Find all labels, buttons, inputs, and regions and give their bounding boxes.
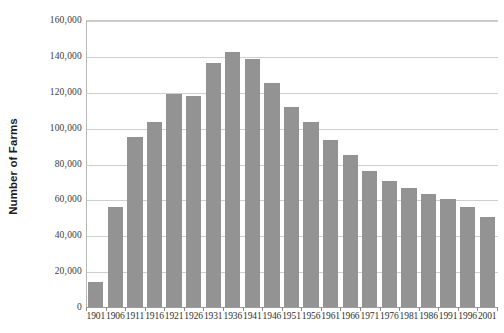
x-axis-tick-label: 1971: [360, 311, 379, 321]
bar-slot: [360, 20, 380, 307]
bar-chart-figure: Number of Farms 160,000140,000120,000100…: [0, 0, 504, 333]
bar-slot: [262, 20, 282, 307]
bar[interactable]: [284, 107, 299, 307]
x-axis-tick-label: 1911: [126, 311, 144, 321]
x-axis-tick-label: 1986: [419, 311, 438, 321]
x-axis-tick-label: 1931: [204, 311, 223, 321]
x-axis-tick-labels: 1901190619111916192119261931193619411946…: [86, 311, 498, 331]
bar-slot: [399, 20, 419, 307]
bar[interactable]: [186, 96, 201, 307]
bar-slot: [282, 20, 302, 307]
bar-slot: [243, 20, 263, 307]
bar-slot: [321, 20, 341, 307]
x-axis-tick-label: 1946: [263, 311, 282, 321]
y-axis-tick-label: 140,000: [6, 51, 82, 61]
x-axis-tick-label: 1991: [439, 311, 458, 321]
bar[interactable]: [225, 52, 240, 307]
bar[interactable]: [382, 181, 397, 307]
bar-slot: [477, 20, 497, 307]
bar-slot: [380, 20, 400, 307]
bar-slot: [106, 20, 126, 307]
bar[interactable]: [245, 59, 260, 307]
x-axis-tick-label: 1906: [106, 311, 125, 321]
bar[interactable]: [323, 140, 338, 307]
bar-slot: [125, 20, 145, 307]
bar[interactable]: [460, 207, 475, 307]
x-axis-tick-label: 1941: [243, 311, 262, 321]
bar[interactable]: [343, 155, 358, 307]
x-axis-tick-label: 1926: [184, 311, 203, 321]
y-axis-tick-label: 120,000: [6, 87, 82, 97]
bar[interactable]: [362, 171, 377, 307]
x-axis-tick-label: 1951: [282, 311, 301, 321]
x-axis-tick-label: 1961: [321, 311, 340, 321]
x-axis-tick-label: 1901: [86, 311, 105, 321]
y-axis-tick-label: 80,000: [6, 159, 82, 169]
y-axis-tick-label: 20,000: [6, 266, 82, 276]
bar-slot: [419, 20, 439, 307]
y-axis-tick-label: 0: [6, 302, 82, 312]
bar[interactable]: [421, 194, 436, 307]
x-axis-tick-label: 1921: [165, 311, 184, 321]
x-axis-tick-label: 1936: [223, 311, 242, 321]
x-axis-tick-label: 1996: [458, 311, 477, 321]
bar[interactable]: [480, 217, 495, 307]
x-axis-tick-label: 1981: [400, 311, 419, 321]
x-axis-tick-label: 2001: [478, 311, 497, 321]
x-axis-tick-label: 1916: [145, 311, 164, 321]
y-axis-tick-label: 100,000: [6, 123, 82, 133]
x-axis-tick-label: 1966: [341, 311, 360, 321]
bar[interactable]: [401, 188, 416, 307]
bar-slot: [340, 20, 360, 307]
bar-slot: [203, 20, 223, 307]
bars-layer: [86, 20, 497, 307]
bar[interactable]: [147, 122, 162, 307]
bar[interactable]: [264, 83, 279, 307]
x-axis-tick-label: 1956: [302, 311, 321, 321]
bar[interactable]: [440, 199, 455, 307]
bar[interactable]: [108, 207, 123, 307]
bar[interactable]: [303, 122, 318, 307]
bar[interactable]: [206, 63, 221, 307]
bar-slot: [184, 20, 204, 307]
bar-slot: [438, 20, 458, 307]
y-axis-tick-label: 40,000: [6, 230, 82, 240]
bar[interactable]: [127, 137, 142, 307]
bar-slot: [223, 20, 243, 307]
y-axis-tick-label: 160,000: [6, 15, 82, 25]
bar-slot: [145, 20, 165, 307]
bar[interactable]: [88, 282, 103, 307]
bar[interactable]: [166, 94, 181, 307]
x-axis-tick-label: 1976: [380, 311, 399, 321]
bar-slot: [164, 20, 184, 307]
bar-slot: [86, 20, 106, 307]
bar-slot: [301, 20, 321, 307]
y-axis-tick-label: 60,000: [6, 194, 82, 204]
y-axis-tick-labels: 160,000140,000120,000100,00080,00060,000…: [0, 0, 82, 333]
bar-slot: [458, 20, 478, 307]
